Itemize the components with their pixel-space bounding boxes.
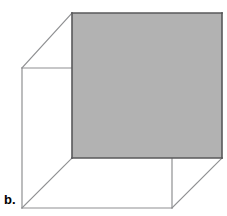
shaded-face-group bbox=[72, 13, 222, 158]
far-square-face bbox=[72, 13, 222, 158]
figure-label: b. bbox=[4, 193, 16, 206]
cube-diagram bbox=[0, 0, 227, 216]
cube-figure: b. bbox=[0, 0, 227, 216]
